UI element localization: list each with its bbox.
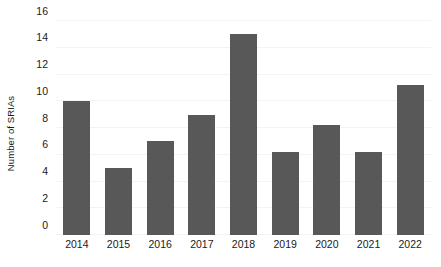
- bar: [105, 168, 132, 235]
- y-axis-tick-label: 2: [42, 193, 48, 204]
- y-axis-tick-label: 8: [42, 112, 48, 123]
- bar: [313, 125, 340, 235]
- x-axis-tick-label: 2018: [223, 238, 265, 254]
- bars-container: [56, 21, 431, 235]
- x-axis-tick-label: 2015: [98, 238, 140, 254]
- x-axis-tick-label: 2016: [139, 238, 181, 254]
- bar-slot: [98, 21, 140, 235]
- x-axis-tick-label: 2020: [306, 238, 348, 254]
- x-axis-tick-label: 2022: [389, 238, 431, 254]
- bar-slot: [181, 21, 223, 235]
- y-axis-tick-label: 16: [36, 5, 48, 16]
- bar: [272, 152, 299, 235]
- bar: [63, 101, 90, 235]
- bar-slot: [389, 21, 431, 235]
- x-axis-tick-label: 2014: [56, 238, 98, 254]
- bar: [397, 85, 424, 235]
- x-axis-tick-labels: 201420152016201720182019202020212022: [56, 238, 431, 254]
- y-axis-tick-label: 10: [36, 86, 48, 97]
- bar: [355, 152, 382, 235]
- y-axis-tick-label: 4: [42, 166, 48, 177]
- bar: [147, 141, 174, 235]
- bar-slot: [139, 21, 181, 235]
- x-axis-tick-label: 2019: [264, 238, 306, 254]
- bar-chart: Number of SRIAs 0246810121416 2014201520…: [0, 0, 441, 267]
- y-axis-title: Number of SRIAs: [0, 0, 20, 267]
- plot-area: 0246810121416: [56, 21, 431, 235]
- bar: [188, 115, 215, 235]
- y-axis-tick-label: 0: [42, 219, 48, 230]
- y-axis-tick-label: 14: [36, 32, 48, 43]
- bar-slot: [223, 21, 265, 235]
- x-axis-tick-label: 2017: [181, 238, 223, 254]
- bar: [230, 34, 257, 235]
- bar-slot: [56, 21, 98, 235]
- bar-slot: [264, 21, 306, 235]
- y-axis-tick-label: 12: [36, 59, 48, 70]
- bar-slot: [348, 21, 390, 235]
- bar-slot: [306, 21, 348, 235]
- x-axis-tick-label: 2021: [348, 238, 390, 254]
- y-axis-tick-label: 6: [42, 139, 48, 150]
